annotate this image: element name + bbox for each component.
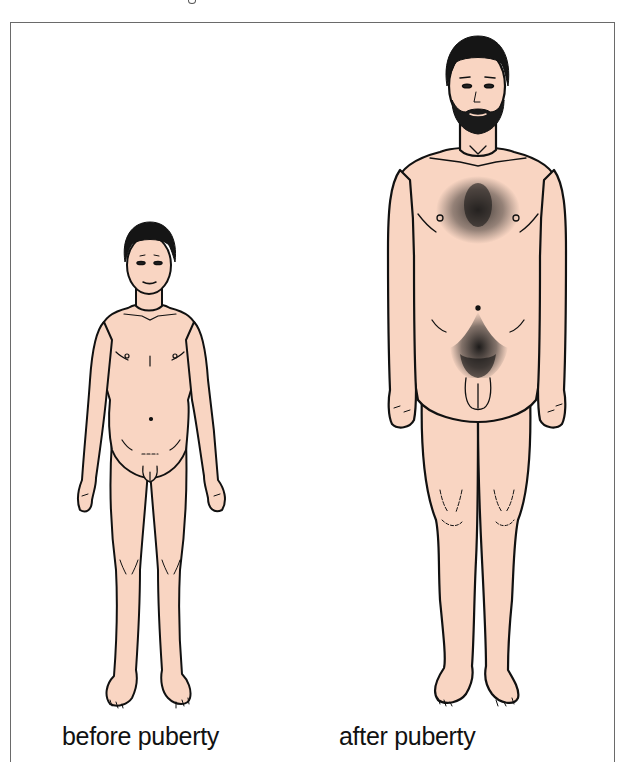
man-right-arm (538, 170, 566, 427)
boy-left-leg (107, 440, 148, 706)
man-left-arm (388, 170, 416, 427)
boy-head (127, 236, 171, 294)
man-right-leg (478, 390, 530, 703)
label-after-puberty: after puberty (339, 722, 475, 751)
boy-right-arm (186, 322, 225, 511)
boy-right-leg (150, 440, 191, 704)
boy-torso (99, 304, 199, 479)
label-before-puberty: before puberty (62, 722, 219, 751)
man-left-leg (422, 390, 478, 703)
boy-left-arm (78, 322, 112, 512)
man-chest-hair (436, 176, 520, 244)
